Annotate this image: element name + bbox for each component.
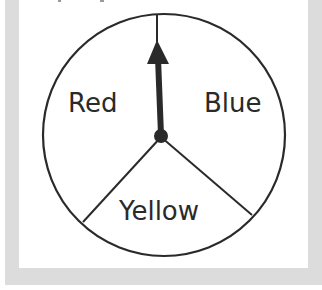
spinner-hub — [154, 129, 168, 143]
spinner-diagram: Red Blue Yellow — [0, 0, 322, 290]
arrow-head-icon — [147, 40, 169, 64]
section-label-blue: Blue — [204, 88, 262, 118]
section-label-red: Red — [68, 88, 117, 118]
section-label-yellow: Yellow — [118, 196, 199, 226]
spinner-arrow — [147, 40, 169, 143]
arrow-shaft — [158, 58, 161, 135]
